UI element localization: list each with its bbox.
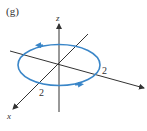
circle-in-xy-plane-diagram: (g) z x 2 2 [0,0,147,131]
x-axis-tick-2: 2 [39,87,44,98]
panel-label: (g) [6,5,19,18]
y-axis-tick-2: 2 [102,65,107,76]
x-axis-label: x [6,111,11,121]
z-axis-label: z [55,13,60,23]
y-axis [10,51,144,88]
